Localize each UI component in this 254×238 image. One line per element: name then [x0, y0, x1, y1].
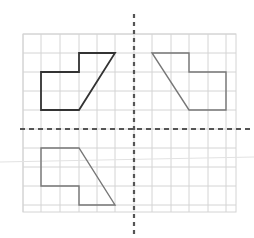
horizontal-reflection-shape — [41, 148, 115, 205]
original-shape — [41, 53, 115, 110]
reflection-diagram — [0, 0, 254, 238]
scan-artifact-line — [0, 157, 254, 162]
